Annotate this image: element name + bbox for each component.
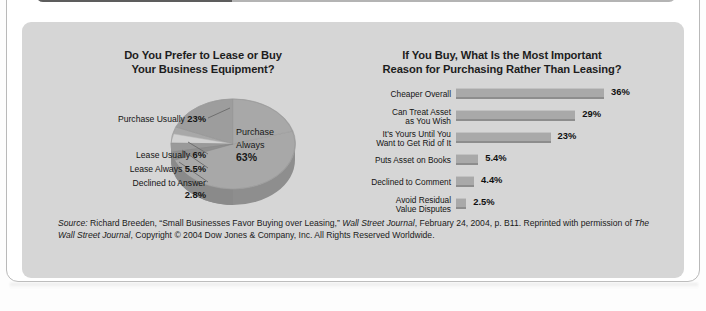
bar-row-label: Can Treat Assetas You Wish (352, 108, 456, 127)
bar-row-label-line2: Want to Get Rid of It (352, 139, 451, 148)
bar-track: 2.5% (456, 194, 658, 216)
page-shadow (10, 283, 698, 288)
source-text-3: , Copyright © 2004 Dow Jones & Company, … (130, 230, 434, 240)
pie-label-lease-always-name: Lease Always (130, 164, 183, 174)
bar-shape (456, 198, 466, 209)
pie-label-lease-usually-value: 6% (192, 149, 206, 160)
pie-center-label: Purchase Always 63% (236, 126, 310, 164)
running-header-bar: . (36, 0, 676, 2)
pie-label-purchase-usually-name: Purchase Usually (118, 114, 185, 124)
bar-row: Avoid ResidualValue Disputes2.5% (352, 194, 658, 216)
bar-track: 5.4% (456, 150, 658, 172)
bar-row-label-line1: Puts Asset on Books (352, 156, 451, 165)
source-label: Source: (58, 218, 88, 228)
bar-track: 36% (456, 84, 658, 106)
source-citation: Source: Richard Breeden, “Small Business… (58, 218, 658, 241)
bar-row: Puts Asset on Books5.4% (352, 150, 658, 172)
pie-center-label-line2: Always (236, 139, 310, 152)
bar-row-label-line1: Cheaper Overall (352, 90, 451, 99)
bar-track: 29% (456, 106, 658, 128)
scanned-page: . Do You Prefer to Lease or Buy Your Bus… (0, 0, 706, 311)
pie-label-lease-usually-name: Lease Usually (136, 150, 190, 160)
source-italic-1: Wall Street Journal (342, 218, 414, 228)
bar-row-label: Avoid ResidualValue Disputes (352, 196, 456, 215)
bar-value-label: 5.4% (485, 152, 506, 163)
bar-row-label: Declined to Comment (352, 178, 456, 187)
bar-value-label: 36% (611, 86, 630, 97)
bar-row-label: It's Yours Until YouWant to Get Rid of I… (352, 130, 456, 149)
bar-shape (456, 110, 575, 121)
bar-chart-title-line2: Reason for Purchasing Rather Than Leasin… (352, 62, 652, 76)
bar-chart-title: If You Buy, What Is the Most Important R… (352, 48, 652, 76)
bar-row-label-line2: Value Disputes (352, 205, 451, 214)
pie-center-label-value: 63% (236, 151, 310, 164)
pie-center-label-line1: Purchase (236, 126, 310, 139)
pie-label-purchase-usually: Purchase Usually 23% (58, 114, 206, 124)
source-text-1: Richard Breeden, “Small Businesses Favor… (88, 218, 343, 228)
pie-chart-title-line2: Your Business Equipment? (58, 62, 348, 76)
bar-row: It's Yours Until YouWant to Get Rid of I… (352, 128, 658, 150)
bar-value-label: 4.4% (481, 174, 502, 185)
bar-row-label-line2: as You Wish (352, 117, 451, 126)
bar-chart: Cheaper Overall36%Can Treat Assetas You … (352, 84, 658, 224)
bar-row: Cheaper Overall36% (352, 84, 658, 106)
bar-row-label-line1: Declined to Comment (352, 178, 451, 187)
bar-track: 23% (456, 128, 658, 150)
pie-label-purchase-usually-value: 23% (187, 113, 206, 124)
pie-label-lease-always-value: 5.5% (185, 163, 206, 174)
bar-shape (456, 176, 474, 187)
bar-row-label: Puts Asset on Books (352, 156, 456, 165)
pie-label-declined-to-answer-value: 2.8% (58, 190, 206, 200)
bar-shape (456, 154, 478, 165)
pie-label-lease-always: Lease Always 5.5% (58, 164, 206, 174)
running-header-dark-block (36, 0, 232, 2)
bar-value-label: 29% (582, 108, 601, 119)
source-text-2: , February 24, 2004, p. B11. Reprinted w… (415, 218, 635, 228)
bar-value-label: 23% (558, 130, 577, 141)
exhibit-panel: Do You Prefer to Lease or Buy Your Busin… (22, 22, 684, 278)
bar-value-label: 2.5% (473, 196, 494, 207)
pie-label-declined-to-answer: Declined to Answer (58, 178, 206, 188)
pie-label-lease-usually: Lease Usually 6% (58, 150, 206, 160)
bar-chart-title-line1: If You Buy, What Is the Most Important (352, 48, 652, 62)
pie-chart-title-line1: Do You Prefer to Lease or Buy (58, 48, 348, 62)
pie-chart-title: Do You Prefer to Lease or Buy Your Busin… (58, 48, 348, 76)
bar-track: 4.4% (456, 172, 658, 194)
bar-shape (456, 132, 551, 143)
pie-label-declined-to-answer-name: Declined to Answer (132, 178, 206, 188)
bar-row: Declined to Comment4.4% (352, 172, 658, 194)
pie-chart: Purchase Always 63% Purchase Usually 23%… (58, 82, 348, 222)
bar-shape (456, 88, 604, 99)
bar-row-label: Cheaper Overall (352, 90, 456, 99)
bar-row: Can Treat Assetas You Wish29% (352, 106, 658, 128)
